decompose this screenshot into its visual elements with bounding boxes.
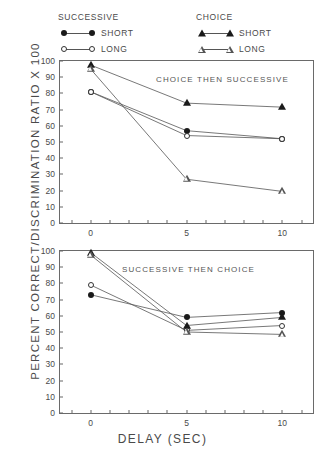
data-point-open-triangle (87, 251, 95, 258)
x-tick-label: 10 (278, 418, 287, 428)
legend-entry-choice-long: LONG (196, 44, 272, 54)
legend-entry-label: SHORT (101, 28, 134, 38)
figure-root: SUCCESSIVE SHORT LONG CHOICE (0, 0, 325, 458)
x-tick-label: 10 (278, 228, 287, 238)
legend-entry-label: LONG (239, 44, 266, 54)
data-point-filled-triangle (278, 103, 286, 110)
data-point-open-circle (279, 136, 285, 142)
y-tick-label: 90 (46, 262, 55, 272)
data-point-open-circle (88, 89, 94, 95)
data-point-filled-circle (88, 292, 94, 298)
y-tick-label: 20 (46, 186, 55, 196)
series-lines (60, 61, 313, 223)
legend-entry-successive-long: LONG (58, 44, 134, 54)
panel-title-bottom: SUCCESSIVE THEN CHOICE (122, 265, 255, 274)
open-circle-icon (58, 44, 98, 54)
y-tick-label: 20 (46, 376, 55, 386)
chart-panel-bottom: 10090807060504030201000510 SUCCESSIVE TH… (59, 250, 314, 414)
data-point-open-triangle (183, 328, 191, 335)
y-tick-label: 40 (46, 153, 55, 163)
x-axis-title: DELAY (SEC) (0, 432, 325, 446)
y-tick-label: 10 (46, 202, 55, 212)
filled-triangle-icon (196, 28, 236, 38)
data-point-filled-circle (184, 314, 190, 320)
y-tick-label: 80 (46, 88, 55, 98)
y-tick-label: 100 (41, 246, 55, 256)
y-tick-label: 0 (50, 408, 55, 418)
y-tick-label: 10 (46, 392, 55, 402)
chart-legend: SUCCESSIVE SHORT LONG CHOICE (0, 0, 325, 56)
plot-area-bottom: 10090807060504030201000510 (60, 251, 313, 413)
plot-area-top: 10090807060504030201000510 (60, 61, 313, 223)
legend-entry-label: SHORT (239, 28, 272, 38)
open-triangle-icon (196, 44, 236, 54)
y-tick-label: 60 (46, 121, 55, 131)
legend-group-choice: CHOICE SHORT LONG (196, 12, 272, 54)
data-point-filled-triangle (183, 99, 191, 106)
data-point-filled-triangle (278, 313, 286, 320)
y-tick-label: 40 (46, 343, 55, 353)
legend-group-title: SUCCESSIVE (58, 12, 134, 22)
data-point-open-circle (279, 323, 285, 329)
data-point-open-triangle (278, 330, 286, 337)
filled-circle-icon (58, 28, 98, 38)
x-tick-label: 0 (88, 228, 93, 238)
x-tick-label: 5 (184, 228, 189, 238)
legend-entry-label: LONG (101, 44, 128, 54)
y-tick-label: 80 (46, 278, 55, 288)
y-tick-label: 100 (41, 56, 55, 66)
data-point-open-circle (88, 282, 94, 288)
legend-entry-choice-short: SHORT (196, 28, 272, 38)
x-tick-label: 5 (184, 418, 189, 428)
x-tick-label: 0 (88, 418, 93, 428)
data-point-open-triangle (87, 65, 95, 72)
data-point-open-triangle (183, 175, 191, 182)
legend-group-successive: SUCCESSIVE SHORT LONG (58, 12, 134, 54)
y-tick-label: 30 (46, 169, 55, 179)
y-axis-title: PERCENT CORRECT/DISCRIMINATION RATIO X 1… (29, 19, 41, 404)
y-tick-label: 50 (46, 137, 55, 147)
y-tick-label: 70 (46, 105, 55, 115)
y-tick-label: 50 (46, 327, 55, 337)
panel-title-top: CHOICE THEN SUCCESSIVE (156, 75, 289, 84)
y-tick-label: 70 (46, 295, 55, 305)
chart-panel-top: 10090807060504030201000510 CHOICE THEN S… (59, 60, 314, 224)
legend-group-title: CHOICE (196, 12, 272, 22)
data-point-open-triangle (278, 187, 286, 194)
y-tick-label: 0 (50, 218, 55, 228)
data-point-open-circle (184, 133, 190, 139)
y-tick-label: 30 (46, 359, 55, 369)
y-tick-label: 90 (46, 72, 55, 82)
legend-entry-successive-short: SHORT (58, 28, 134, 38)
y-tick-label: 60 (46, 311, 55, 321)
